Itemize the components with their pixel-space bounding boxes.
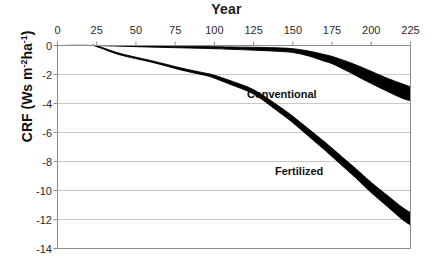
data-series-layer (58, 45, 411, 225)
series-band-conventional (58, 45, 411, 100)
series-label-fertilized: Fertilized (275, 165, 323, 177)
y-axis-tick-marks (54, 46, 58, 249)
x-axis-tick-marks (58, 42, 411, 46)
series-label-conventional: Conventional (247, 88, 317, 100)
plot-area (0, 0, 431, 267)
chart-figure: Year CRF (Ws m-2ha-1) 025507510012515017… (0, 0, 431, 267)
gridlines (58, 75, 411, 220)
